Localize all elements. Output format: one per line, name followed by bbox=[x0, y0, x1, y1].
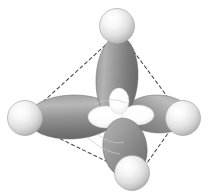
orbital-diagram-figure: Tetrahedral sp3 hybrid orbital set with … bbox=[0, 0, 208, 196]
minor-lobe-upper bbox=[109, 88, 129, 114]
left-vertex-atom bbox=[8, 101, 43, 136]
right-vertex-atom bbox=[166, 101, 201, 136]
top-vertex-atom bbox=[100, 9, 135, 44]
orbital-diagram-canvas bbox=[0, 0, 208, 196]
bottom-front-vertex-atom bbox=[115, 156, 150, 191]
